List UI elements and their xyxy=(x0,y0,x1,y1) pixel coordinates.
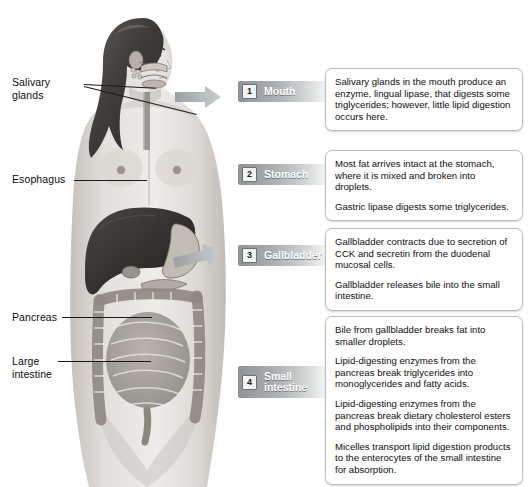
body-diagram-svg xyxy=(55,0,240,487)
step-3-number: 3 xyxy=(242,248,257,263)
leader-line-large-intestine xyxy=(58,361,151,362)
step-1-label: Mouth xyxy=(264,86,296,98)
step-1-banner[interactable]: 1 Mouth xyxy=(238,81,328,102)
step-3-paragraph-2: Gallbladder releases bile into the small… xyxy=(335,279,513,302)
step-4-banner[interactable]: 4 Small intestine xyxy=(238,366,328,398)
label-salivary-glands-line1: Salivary xyxy=(12,76,82,89)
step-2-number: 2 xyxy=(242,167,257,182)
step-4-paragraph-3: Lipid-digesting enzymes from the pancrea… xyxy=(335,398,513,433)
label-large-intestine: Large intestine xyxy=(12,355,72,380)
step-4-paragraph-2: Lipid-digesting enzymes from the pancrea… xyxy=(335,355,513,390)
step-2-banner[interactable]: 2 Stomach xyxy=(238,164,328,185)
step-4-number: 4 xyxy=(242,375,257,390)
step-1[interactable]: 1 Mouth xyxy=(238,81,328,102)
step-2-callout: Most fat arrives intact at the stomach, … xyxy=(325,150,523,221)
step-1-number: 1 xyxy=(242,84,257,99)
label-salivary-glands-line2: glands xyxy=(12,89,82,102)
step-2-paragraph-1: Most fat arrives intact at the stomach, … xyxy=(335,158,513,193)
label-pancreas-text: Pancreas xyxy=(12,311,57,323)
step-3-paragraph-1: Gallbladder contracts due to secretion o… xyxy=(335,236,513,271)
step-4[interactable]: 4 Small intestine xyxy=(238,366,328,398)
step-2-label: Stomach xyxy=(264,169,308,181)
step-3-banner[interactable]: 3 Gallbladder xyxy=(238,245,328,266)
leader-line-pancreas xyxy=(62,317,152,318)
step-2-paragraph-2: Gastric lipase digests some triglyceride… xyxy=(335,201,513,213)
label-large-intestine-line2: intestine xyxy=(12,368,72,381)
step-1-callout: Salivary glands in the mouth produce an … xyxy=(325,68,523,131)
gallbladder-organ xyxy=(122,266,140,278)
step-3[interactable]: 3 Gallbladder xyxy=(238,245,328,266)
figure-page: Salivary glands Esophagus Pancreas Large… xyxy=(0,0,532,487)
step-4-paragraph-1: Bile from gallbladder breaks fat into sm… xyxy=(335,324,513,347)
leader-line-esophagus xyxy=(74,180,147,181)
step-1-paragraph-1: Salivary glands in the mouth produce an … xyxy=(335,76,513,122)
label-salivary-glands: Salivary glands xyxy=(12,76,82,101)
anatomical-illustration xyxy=(55,0,240,487)
step-4-callout: Bile from gallbladder breaks fat into sm… xyxy=(325,316,523,485)
step-3-label: Gallbladder xyxy=(264,250,322,262)
step-2[interactable]: 2 Stomach xyxy=(238,164,328,185)
step-3-callout: Gallbladder contracts due to secretion o… xyxy=(325,228,523,311)
label-esophagus-text: Esophagus xyxy=(12,173,65,185)
step-4-paragraph-4: Micelles transport lipid digestion produ… xyxy=(335,441,513,476)
step-4-label: Small intestine xyxy=(264,371,307,394)
